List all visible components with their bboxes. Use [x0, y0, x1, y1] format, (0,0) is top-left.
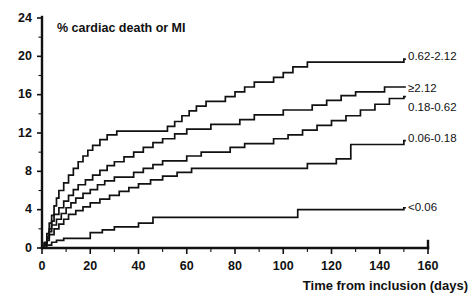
x-tick-label: 100: [273, 259, 294, 273]
x-tick-label: 80: [228, 259, 242, 273]
y-tick-label: 4: [25, 202, 32, 216]
series-curve-4: [42, 208, 406, 248]
x-axis-title: Time from inclusion (days): [303, 278, 468, 293]
y-tick-label: 8: [25, 164, 32, 178]
y-axis-tick-labels: 04812162024: [18, 11, 32, 255]
series-label-3: 0.06-0.18: [408, 132, 457, 144]
y-tick-label: 24: [18, 11, 32, 25]
x-tick-label: 140: [369, 259, 390, 273]
x-tick-label: 160: [418, 259, 439, 273]
chart-container: 04812162024 020406080100120140160 0.62-2…: [0, 0, 474, 305]
x-axis-tick-labels: 020406080100120140160: [39, 259, 439, 273]
y-tick-label: 0: [25, 241, 32, 255]
y-tick-label: 12: [18, 126, 32, 140]
cumulative-incidence-chart: 04812162024 020406080100120140160 0.62-2…: [0, 0, 474, 305]
x-tick-label: 120: [321, 259, 342, 273]
series-labels-group: 0.62-2.12≥2.120.18-0.620.06-0.18<0.06: [408, 50, 457, 212]
series-label-4: <0.06: [408, 201, 437, 213]
y-tick-label: 20: [18, 49, 32, 63]
y-tick-label: 16: [18, 87, 32, 101]
series-label-2: 0.18-0.62: [408, 101, 457, 113]
series-curve-1: [42, 87, 406, 248]
x-tick-label: 40: [132, 259, 146, 273]
series-curves-group: [42, 59, 406, 248]
plot-title: % cardiac death or MI: [57, 21, 186, 35]
x-tick-label: 20: [83, 259, 97, 273]
x-tick-label: 0: [39, 259, 46, 273]
x-tick-label: 60: [180, 259, 194, 273]
series-label-0: 0.62-2.12: [408, 50, 457, 62]
series-label-1: ≥2.12: [408, 82, 437, 94]
tick-marks-group: [37, 18, 428, 254]
axes-group: [42, 17, 428, 248]
series-curve-2: [42, 97, 406, 248]
